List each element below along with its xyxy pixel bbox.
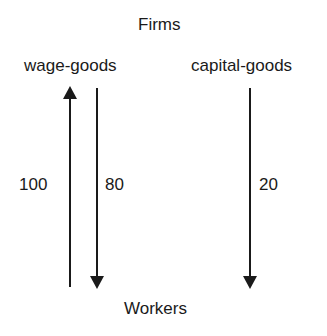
flow-arrows bbox=[0, 0, 327, 336]
arrow-down-capital-20 bbox=[243, 88, 257, 289]
workers-label: Workers bbox=[124, 300, 187, 317]
flow-label-20: 20 bbox=[259, 176, 278, 193]
arrow-head-down-icon bbox=[90, 276, 104, 289]
flow-label-80: 80 bbox=[105, 176, 124, 193]
arrow-down-wage-80 bbox=[90, 88, 104, 289]
arrow-up-wage-100 bbox=[63, 86, 77, 287]
arrow-head-down-icon bbox=[243, 276, 257, 289]
arrow-head-up-icon bbox=[63, 86, 77, 99]
flow-label-100: 100 bbox=[19, 176, 47, 193]
